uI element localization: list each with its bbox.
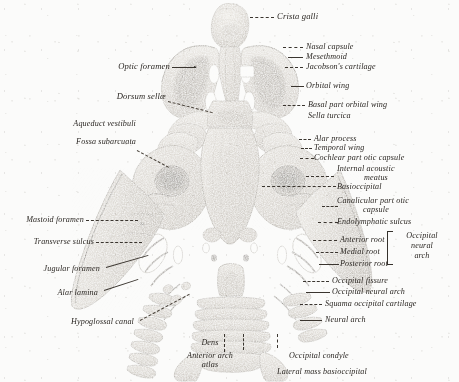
label-dorsum-sellae: Dorsum sellæ [60,92,166,101]
leader-cochlear-part-otic-capsule [300,158,314,159]
arrowhead-optic-foramen [194,66,197,68]
label-fossa-subarcuata: Fossa subarcuata [20,137,136,146]
leader-anterior-root [313,240,337,241]
label-posterior-root: Posterior root [340,259,388,268]
label-optic-foramen: Optic foramen [60,62,170,71]
leader-neural-arch [300,320,322,321]
leader-endolymphatic-sulcus [318,222,338,223]
label-nasal-capsule: Nasal capsule [306,42,354,51]
label-crista-galli: Crista galli [277,12,318,21]
leader-posterior-root [319,264,339,265]
label-jugular-foramen: Jugular foramen [0,264,100,273]
label-occipital-neural-arch: Occipital neural arch [332,287,405,296]
label-cochlear-part-otic-capsule: Cochlear part otic capsule [314,153,404,162]
leader-canalicular-part-otic-capsule [322,206,338,207]
leader-mastoid-foramen [86,220,138,221]
leader-transverse-sulcus [96,242,142,243]
label-occipital-condyle: Occipital condyle [289,351,349,360]
label-jacobsons-cartilage: Jacobson's cartilage [306,62,376,71]
leader-nasal-capsule [283,47,303,48]
leader-anterior-arch-atlas [243,334,244,350]
label-sella-turcica: Sella turcica [308,111,351,120]
leader-occipital-condyle [277,334,278,348]
label-dens: Dens [188,338,232,347]
label-internal-acoustic-meatus-line1: Internal acoustic [337,164,395,173]
leader-crista-galli [250,17,274,18]
leader-basal-part-orbital-wing [283,105,305,106]
leader-orbital-wing [291,86,304,87]
leader-alar-process [299,139,311,140]
leader-jacobsons-cartilage [285,67,303,68]
leader-mesethmoid [288,57,303,58]
label-occipital-fissure: Occipital fissure [332,276,388,285]
leader-squama-occipital-cartilage [300,304,322,305]
label-occipital-neural-arch-line2: neural [394,241,450,250]
label-neural-arch: Neural arch [325,315,366,324]
leader-optic-foramen [172,67,196,68]
label-mesethmoid: Mesethmoid [306,52,347,61]
leader-medial-root [316,252,338,253]
label-squama-occipital-cartilage: Squama occipital cartilage [325,299,417,308]
label-canalicular-part-otic-capsule-line1: Canalicular part otic [337,196,409,205]
label-lateral-mass-basioccipital: Lateral mass basioccipital [232,367,412,376]
label-temporal-wing: Temporal wing [314,143,364,152]
label-mastoid-foramen: Mastoid foramen [0,215,84,224]
label-canalicular-part-otic-capsule-line2: capsule [337,205,415,214]
label-medial-root: Medial root [340,247,380,256]
label-internal-acoustic-meatus-line2: meatus [337,173,415,182]
label-hypoglossal-canal: Hypoglossal canal [0,317,134,326]
leader-occipital-fissure [303,281,329,282]
leader-basioccipital [262,186,336,187]
label-anterior-arch-atlas-line1: Anterior arch [170,351,250,360]
label-occipital-neural-arch-line3: arch [394,251,450,260]
label-basioccipital: Basioccipital [337,182,382,191]
label-alar-lamina: Alar lamina [0,288,98,297]
label-aqueduct-vestibuli: Aqueduct vestibuli [20,119,136,128]
label-anterior-root: Anterior root [340,235,385,244]
label-endolymphatic-sulcus: Endolymphatic sulcus [337,217,411,226]
label-basal-part-orbital-wing: Basal part orbital wing [308,100,387,109]
label-alar-process: Alar process [314,134,357,143]
label-transverse-sulcus: Transverse sulcus [0,237,94,246]
leader-internal-acoustic-meatus [306,176,334,177]
label-occipital-neural-arch-line1: Occipital [394,231,450,240]
label-orbital-wing: Orbital wing [306,81,349,90]
leader-temporal-wing [301,148,312,149]
anatomical-plate: Crista galli Nasal capsule Mesethmoid Ja… [0,0,459,382]
leader-occipital-neural-arch [306,292,330,293]
